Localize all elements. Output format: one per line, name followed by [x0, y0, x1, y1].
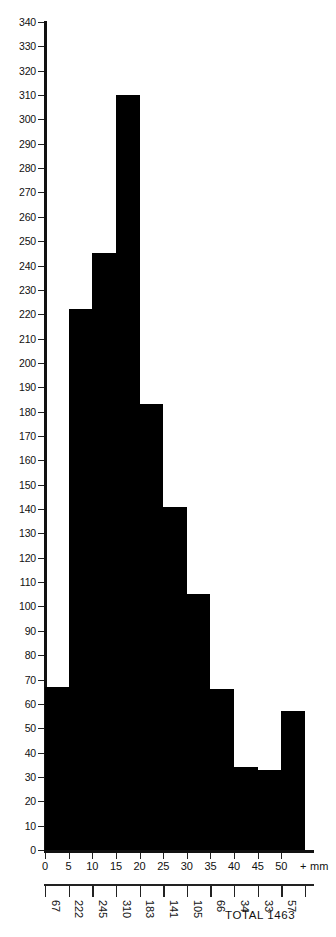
- histogram-bar: [45, 687, 69, 850]
- y-axis-tick: [38, 192, 44, 193]
- y-axis-tick: [38, 606, 44, 607]
- x-axis-tick-label: 50: [268, 861, 294, 872]
- y-axis-tick-label: 140: [2, 504, 36, 515]
- y-axis-tick-label: 300: [2, 114, 36, 125]
- y-axis-tick: [38, 217, 44, 218]
- y-axis-tick: [38, 704, 44, 705]
- y-axis-tick-label: 330: [2, 41, 36, 52]
- y-axis-tick: [38, 314, 44, 315]
- y-axis-tick: [38, 95, 44, 96]
- y-axis-tick-label: 240: [2, 261, 36, 272]
- bin-count-label: 141: [168, 900, 179, 918]
- y-axis-tick-label: 250: [2, 236, 36, 247]
- x-axis-tick-label: 0: [32, 861, 58, 872]
- bin-count-label: 310: [121, 900, 132, 918]
- y-axis-tick: [38, 22, 44, 23]
- x-axis-tick: [163, 853, 164, 859]
- count-axis-tick: [258, 884, 259, 897]
- y-axis-tick-label: 120: [2, 553, 36, 564]
- x-axis-tick: [92, 853, 93, 859]
- y-axis-tick: [38, 582, 44, 583]
- bin-count-label: 67: [50, 900, 61, 912]
- x-axis-tick-label: 10: [79, 861, 105, 872]
- x-axis-tick: [116, 853, 117, 859]
- bin-count-label: 245: [97, 900, 108, 918]
- y-axis-tick: [38, 46, 44, 47]
- y-axis-tick-label: 180: [2, 407, 36, 418]
- histogram-bar: [234, 767, 258, 850]
- y-axis-tick-label: 130: [2, 528, 36, 539]
- x-axis-tick: [187, 853, 188, 859]
- y-axis-tick: [38, 460, 44, 461]
- bin-count-label: 105: [192, 900, 203, 918]
- histogram-figure: 0102030405060708090100110120130140150160…: [0, 0, 336, 937]
- x-axis-tick: [45, 853, 46, 859]
- y-axis-tick: [38, 680, 44, 681]
- bin-count-label: 222: [73, 900, 84, 918]
- y-axis-tick: [38, 71, 44, 72]
- count-axis-tick: [305, 884, 306, 897]
- y-axis-tick: [38, 777, 44, 778]
- plot-area: 0102030405060708090100110120130140150160…: [0, 0, 336, 937]
- y-axis-tick-label: 230: [2, 285, 36, 296]
- count-axis-tick: [92, 884, 93, 897]
- y-axis-tick-label: 320: [2, 66, 36, 77]
- y-axis-tick: [38, 850, 44, 851]
- count-axis-tick: [281, 884, 282, 897]
- y-axis-tick: [38, 436, 44, 437]
- histogram-bar: [258, 770, 282, 850]
- y-axis-tick: [38, 119, 44, 120]
- count-axis-tick: [140, 884, 141, 897]
- x-axis-unit-label: + mm: [300, 861, 329, 872]
- y-axis-tick: [38, 412, 44, 413]
- y-axis-tick-label: 30: [2, 772, 36, 783]
- x-axis-tick-label: 35: [197, 861, 223, 872]
- x-axis-tick-label: 15: [103, 861, 129, 872]
- y-axis-tick-label: 270: [2, 187, 36, 198]
- y-axis-tick-label: 170: [2, 431, 36, 442]
- y-axis-tick-label: 40: [2, 748, 36, 759]
- histogram-bar: [281, 711, 305, 850]
- x-axis-tick-label: 25: [150, 861, 176, 872]
- y-axis-tick: [38, 655, 44, 656]
- count-axis-tick: [163, 884, 164, 897]
- y-axis-tick: [38, 168, 44, 169]
- y-axis-tick: [38, 728, 44, 729]
- x-axis-tick: [281, 853, 282, 859]
- x-axis-tick: [69, 853, 70, 859]
- y-axis-tick-label: 210: [2, 334, 36, 345]
- x-axis-tick: [140, 853, 141, 859]
- histogram-bar: [210, 689, 234, 850]
- histogram-bar: [163, 507, 187, 850]
- x-axis-tick: [258, 853, 259, 859]
- y-axis-tick-label: 290: [2, 139, 36, 150]
- y-axis-tick: [38, 339, 44, 340]
- y-axis-tick-label: 200: [2, 358, 36, 369]
- histogram-bar: [92, 253, 116, 850]
- y-axis-tick: [38, 509, 44, 510]
- y-axis-tick-label: 90: [2, 626, 36, 637]
- y-axis-tick: [38, 387, 44, 388]
- y-axis-tick-label: 160: [2, 455, 36, 466]
- histogram-bar: [187, 594, 211, 850]
- y-axis-tick: [38, 826, 44, 827]
- y-axis-tick-label: 310: [2, 90, 36, 101]
- y-axis-tick: [38, 241, 44, 242]
- histogram-bar: [140, 404, 164, 850]
- count-axis-tick: [69, 884, 70, 897]
- bin-count-label: 183: [144, 900, 155, 918]
- y-axis-tick-label: 220: [2, 309, 36, 320]
- y-axis-tick: [38, 558, 44, 559]
- y-axis-tick-label: 190: [2, 382, 36, 393]
- count-axis-tick: [234, 884, 235, 897]
- count-axis-line: [44, 884, 314, 886]
- y-axis-tick-label: 20: [2, 796, 36, 807]
- count-axis-tick: [45, 884, 46, 897]
- x-axis-line: [44, 850, 314, 853]
- y-axis-tick: [38, 533, 44, 534]
- y-axis-tick: [38, 631, 44, 632]
- y-axis-tick: [38, 485, 44, 486]
- y-axis-tick: [38, 363, 44, 364]
- total-annotation: TOTAL 1463: [225, 909, 295, 921]
- y-axis-tick: [38, 753, 44, 754]
